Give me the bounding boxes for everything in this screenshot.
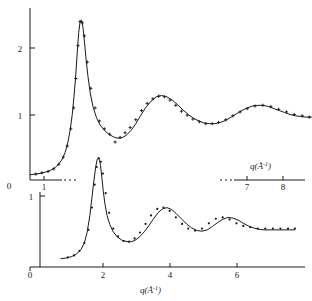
- lower-axis-label-base: q(Å: [140, 285, 153, 295]
- data-point: [34, 173, 37, 176]
- upper-x-axis-label: q(Å-1): [250, 161, 271, 171]
- lower-curve-line: [61, 158, 295, 259]
- data-point: [150, 214, 152, 216]
- data-point: [139, 231, 141, 233]
- upper-axis-label-base: q(Å: [250, 161, 263, 171]
- lower-y-tick-label-1: 1: [29, 192, 34, 202]
- upper-y-tick-label-0: 0: [7, 181, 12, 191]
- data-point: [187, 227, 189, 229]
- data-point: [287, 227, 289, 229]
- data-point: [67, 256, 69, 258]
- data-point: [83, 242, 85, 244]
- upper-x-tick-label-1: 1: [42, 182, 47, 192]
- data-point: [162, 207, 164, 209]
- data-point: [94, 184, 96, 186]
- data-point: [108, 212, 110, 214]
- data-point: [249, 226, 251, 228]
- data-point: [308, 116, 311, 119]
- data-point: [208, 222, 210, 224]
- data-point: [191, 118, 194, 121]
- data-point: [156, 208, 158, 210]
- data-point: [124, 131, 127, 134]
- scattering-chart: 2 1 0 1 7 8 q(Å-1): [0, 0, 312, 301]
- upper-x-tick-label-8: 8: [281, 182, 286, 192]
- upper-y-tick-label-1: 1: [18, 111, 23, 121]
- data-point: [294, 227, 296, 229]
- upper-curve-line: [30, 20, 311, 175]
- lower-x-tick-label-4: 4: [168, 270, 173, 280]
- data-point: [257, 227, 259, 229]
- upper-axis-label-close: ): [267, 161, 271, 171]
- data-point: [253, 104, 256, 107]
- upper-x-tick-label-7: 7: [245, 182, 250, 192]
- figure-container: 2 1 0 1 7 8 q(Å-1): [0, 0, 312, 301]
- upper-panel: 2 1 0 1 7 8 q(Å-1): [7, 8, 312, 192]
- lower-panel: 1 0 2 4 6 q(Å-1): [28, 157, 305, 295]
- upper-y-tick-label-2: 2: [18, 44, 23, 54]
- data-point: [105, 192, 107, 194]
- data-point: [87, 229, 89, 231]
- lower-x-tick-label-0: 0: [28, 270, 33, 280]
- data-point: [144, 223, 146, 225]
- data-point: [40, 171, 43, 174]
- data-point: [91, 207, 93, 209]
- data-point: [129, 126, 132, 129]
- data-point: [73, 254, 75, 256]
- data-point: [201, 227, 203, 229]
- data-point: [76, 44, 79, 47]
- data-point: [98, 157, 100, 159]
- data-point: [117, 235, 119, 237]
- data-point: [102, 172, 104, 174]
- data-point: [235, 222, 237, 224]
- data-point: [215, 218, 217, 220]
- data-point: [74, 77, 77, 80]
- data-point: [128, 241, 130, 243]
- data-point: [134, 118, 137, 121]
- data-point: [222, 216, 224, 218]
- data-point: [181, 223, 183, 225]
- lower-x-axis-label: q(Å-1): [140, 285, 161, 295]
- data-point: [157, 95, 160, 98]
- data-point: [114, 140, 117, 143]
- data-point: [272, 227, 274, 229]
- data-point: [279, 227, 281, 229]
- data-point: [175, 216, 177, 218]
- data-point: [242, 225, 244, 227]
- lower-x-tick-label-6: 6: [235, 270, 240, 280]
- lower-axis-label-close: ): [157, 285, 161, 295]
- data-point: [100, 161, 102, 163]
- data-point: [133, 237, 135, 239]
- data-point: [194, 229, 196, 231]
- data-point: [228, 218, 230, 220]
- data-point: [211, 122, 214, 125]
- lower-x-tick-label-2: 2: [101, 270, 106, 280]
- data-point: [96, 166, 98, 168]
- data-point: [78, 250, 80, 252]
- data-point: [103, 127, 106, 130]
- data-point: [112, 227, 114, 229]
- data-point: [169, 210, 171, 212]
- upper-curve-points: [34, 20, 311, 176]
- data-point: [261, 104, 264, 107]
- data-point: [264, 227, 266, 229]
- data-point: [122, 240, 124, 242]
